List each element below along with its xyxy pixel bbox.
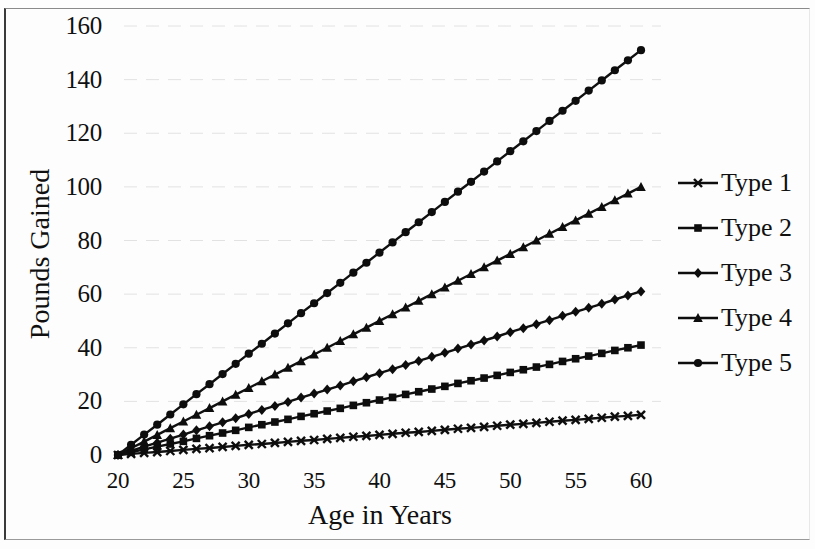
- data-point-marker: [232, 427, 240, 435]
- data-point-marker: [559, 358, 567, 366]
- legend-item-2[interactable]: Type 2: [676, 205, 815, 250]
- data-point-marker: [205, 380, 213, 388]
- data-point-marker: [219, 370, 227, 378]
- chart-figure: 020406080100120140160 202530354045505560…: [0, 0, 815, 549]
- legend-label: Type 5: [720, 350, 792, 376]
- data-point-marker: [310, 410, 318, 418]
- data-point-marker: [349, 269, 357, 277]
- data-point-marker: [694, 224, 702, 232]
- data-point-marker: [271, 329, 279, 337]
- data-point-marker: [454, 344, 463, 354]
- data-point-marker: [388, 364, 397, 374]
- data-point-marker: [323, 289, 331, 297]
- data-point-marker: [336, 405, 344, 413]
- data-point-marker: [624, 344, 632, 352]
- legend-label: Type 4: [720, 305, 792, 331]
- data-point-marker: [193, 435, 201, 443]
- data-point-marker: [571, 307, 580, 317]
- data-point-marker: [546, 361, 554, 369]
- legend-marker-x-icon: [676, 173, 720, 193]
- legend-marker-triangle-icon: [676, 308, 720, 328]
- data-point-marker: [611, 66, 619, 74]
- data-point-marker: [232, 360, 240, 368]
- data-point-marker: [480, 374, 488, 382]
- data-point-marker: [363, 399, 371, 407]
- data-point-marker: [441, 198, 449, 206]
- data-point-marker: [585, 352, 593, 360]
- data-point-marker: [362, 372, 371, 382]
- legend-item-4[interactable]: Type 4: [676, 295, 815, 340]
- data-point-marker: [441, 383, 449, 391]
- data-point-marker: [415, 388, 423, 396]
- data-point-marker: [350, 402, 358, 410]
- data-point-marker: [480, 167, 488, 175]
- legend-item-1[interactable]: Type 1: [676, 160, 815, 205]
- data-point-marker: [506, 369, 514, 377]
- data-point-marker: [467, 377, 475, 385]
- data-point-marker: [245, 424, 253, 432]
- data-point-marker: [179, 400, 187, 408]
- data-point-marker: [153, 421, 161, 429]
- data-point-marker: [598, 350, 606, 358]
- data-point-marker: [493, 157, 501, 165]
- data-point-marker: [401, 360, 410, 370]
- data-point-marker: [454, 188, 462, 196]
- data-point-marker: [166, 410, 174, 418]
- data-point-marker: [206, 432, 214, 440]
- data-point-marker: [532, 127, 540, 135]
- data-point-marker: [624, 290, 633, 300]
- data-point-marker: [611, 294, 620, 304]
- data-point-marker: [694, 268, 703, 278]
- data-point-marker: [428, 352, 437, 362]
- data-point-marker: [545, 315, 554, 325]
- data-point-marker: [258, 405, 267, 415]
- data-point-marker: [323, 385, 332, 395]
- data-point-marker: [520, 366, 528, 374]
- data-point-marker: [572, 97, 580, 105]
- legend-label: Type 2: [720, 215, 792, 241]
- chart-legend: Type 1Type 2Type 3Type 4Type 5: [676, 160, 815, 385]
- data-point-marker: [493, 331, 502, 341]
- data-point-marker: [336, 381, 345, 391]
- data-point-marker: [506, 327, 515, 337]
- data-point-marker: [441, 348, 450, 358]
- data-point-marker: [454, 380, 462, 388]
- data-point-marker: [284, 397, 293, 407]
- data-point-marker: [585, 87, 593, 95]
- legend-label: Type 1: [720, 170, 792, 196]
- data-point-marker: [545, 117, 553, 125]
- series-2: [114, 341, 645, 459]
- data-point-marker: [493, 372, 501, 380]
- data-point-marker: [572, 355, 580, 363]
- data-point-marker: [611, 347, 619, 355]
- legend-marker-diamond-icon: [676, 263, 720, 283]
- legend-item-5[interactable]: Type 5: [676, 340, 815, 385]
- data-point-marker: [428, 385, 436, 393]
- data-point-marker: [558, 311, 567, 321]
- legend-marker-circle-icon: [676, 353, 720, 373]
- data-point-marker: [375, 248, 383, 256]
- data-point-marker: [402, 391, 410, 399]
- data-point-marker: [271, 401, 280, 411]
- data-point-marker: [428, 208, 436, 216]
- data-point-marker: [258, 421, 266, 429]
- data-point-marker: [258, 340, 266, 348]
- data-point-marker: [414, 356, 423, 366]
- data-point-marker: [467, 340, 476, 350]
- data-point-marker: [192, 425, 201, 435]
- data-point-marker: [389, 394, 397, 402]
- data-point-marker: [205, 421, 214, 431]
- data-point-marker: [388, 238, 396, 246]
- legend-marker-square-icon: [676, 218, 720, 238]
- data-point-marker: [271, 418, 279, 426]
- data-point-marker: [244, 409, 253, 419]
- data-point-marker: [284, 416, 292, 424]
- data-point-marker: [402, 228, 410, 236]
- data-point-marker: [375, 368, 384, 378]
- data-point-marker: [519, 137, 527, 145]
- data-point-marker: [323, 407, 331, 415]
- data-point-marker: [114, 451, 122, 459]
- legend-item-3[interactable]: Type 3: [676, 250, 815, 295]
- data-point-marker: [336, 279, 344, 287]
- data-point-marker: [297, 413, 305, 421]
